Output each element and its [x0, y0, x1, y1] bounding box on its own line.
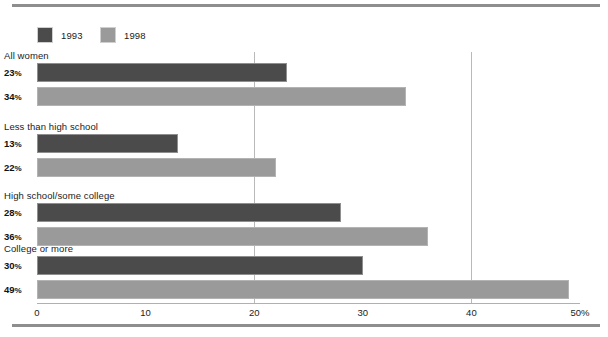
- bar-value-label: 28%: [4, 207, 22, 218]
- bar-row: 28%: [0, 203, 608, 222]
- plot-area: 01020304050%All women23%34%Less than hig…: [0, 0, 608, 337]
- x-tick-label-40: 40: [466, 307, 477, 318]
- bar-value-label: 36%: [4, 231, 22, 242]
- x-axis-line: [37, 303, 580, 304]
- group-label-1: Less than high school: [4, 121, 98, 132]
- bar-row: 23%: [0, 63, 608, 82]
- bar-row: 13%: [0, 134, 608, 153]
- bar-1998-3: [37, 280, 569, 299]
- bar-value-label: 30%: [4, 260, 22, 271]
- x-tick-label-10: 10: [140, 307, 151, 318]
- x-tick-label-50pct: 50%: [570, 307, 589, 318]
- group-label-3: College or more: [4, 243, 73, 254]
- bar-1993-3: [37, 256, 363, 275]
- bar-row: 30%: [0, 256, 608, 275]
- bar-1993-2: [37, 203, 341, 222]
- bar-1993-1: [37, 134, 178, 153]
- bar-1998-2: [37, 227, 428, 246]
- group-label-2: High school/some college: [4, 190, 115, 201]
- bar-value-label: 49%: [4, 284, 22, 295]
- x-tick-label-20: 20: [249, 307, 260, 318]
- bar-row: 22%: [0, 158, 608, 177]
- x-tick-label-0: 0: [34, 307, 39, 318]
- bar-value-label: 23%: [4, 67, 22, 78]
- bar-value-label: 22%: [4, 162, 22, 173]
- group-label-0: All women: [4, 50, 49, 61]
- bar-chart: 1993 1998 01020304050%All women23%34%Les…: [0, 0, 608, 337]
- x-tick-label-30: 30: [358, 307, 369, 318]
- bar-value-label: 34%: [4, 91, 22, 102]
- bar-1998-0: [37, 87, 406, 106]
- bar-value-label: 13%: [4, 138, 22, 149]
- bar-row: 34%: [0, 87, 608, 106]
- bar-1998-1: [37, 158, 276, 177]
- bar-1993-0: [37, 63, 287, 82]
- bar-row: 49%: [0, 280, 608, 299]
- bar-row: 36%: [0, 227, 608, 246]
